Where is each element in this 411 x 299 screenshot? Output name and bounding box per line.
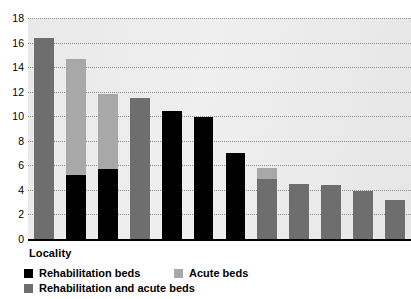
legend-row-1: Rehabilitation beds Acute beds (24, 268, 411, 283)
bar (162, 18, 182, 239)
y-axis-tick-label: 0 (0, 234, 24, 244)
bar-segment (289, 184, 309, 239)
legend-item-rehabilitation-and-acute-beds: Rehabilitation and acute beds (24, 283, 195, 294)
legend-row-2: Rehabilitation and acute beds (24, 283, 411, 298)
bar (321, 18, 341, 239)
legend-swatch-rehabilitation-and-acute-beds (24, 284, 33, 293)
y-axis-tick-label: 2 (0, 209, 24, 219)
y-axis-tick-label: 6 (0, 160, 24, 170)
bar-segment (98, 94, 118, 169)
legend-swatch-acute-beds (174, 269, 183, 278)
bar-chart: 024681012141618 Locality Rehabilitation … (0, 0, 411, 299)
bar-segment (162, 111, 182, 239)
y-axis-tick-label: 18 (0, 13, 24, 23)
bar-segment (385, 200, 405, 239)
y-axis-tick-label: 12 (0, 87, 24, 97)
y-axis-tick-label: 14 (0, 62, 24, 72)
bar-segment (66, 175, 86, 239)
legend-label-acute-beds: Acute beds (189, 268, 248, 279)
bar (353, 18, 373, 239)
chart-legend: Rehabilitation beds Acute beds Rehabilit… (24, 268, 411, 298)
cropped-caption (0, 0, 411, 7)
bar-segment (226, 153, 246, 239)
bar-segment (257, 179, 277, 239)
plot-area (28, 8, 411, 241)
bar (385, 18, 405, 239)
bar-segment (353, 191, 373, 239)
bar (130, 18, 150, 239)
legend-swatch-rehabilitation-beds (24, 269, 33, 278)
bar (257, 18, 277, 239)
y-axis-tick-label: 4 (0, 185, 24, 195)
bar-segment (34, 38, 54, 239)
bar-series (28, 18, 411, 239)
bar (66, 18, 86, 239)
bar (98, 18, 118, 239)
y-axis-tick-label: 8 (0, 136, 24, 146)
bar-segment (66, 59, 86, 176)
x-axis-line (28, 239, 411, 241)
legend-item-rehabilitation-beds: Rehabilitation beds (24, 268, 140, 279)
y-axis-tick-label: 16 (0, 38, 24, 48)
bar-segment (321, 185, 341, 239)
y-axis-tick-label: 10 (0, 111, 24, 121)
bar (194, 18, 214, 239)
legend-item-acute-beds: Acute beds (174, 268, 248, 279)
legend-label-rehabilitation-beds: Rehabilitation beds (39, 268, 140, 279)
bar-segment (98, 169, 118, 239)
bar (226, 18, 246, 239)
x-axis-title: Locality (29, 247, 71, 259)
y-axis-labels: 024681012141618 (0, 8, 24, 241)
bar (34, 18, 54, 239)
bar-segment (130, 98, 150, 239)
legend-label-rehabilitation-and-acute-beds: Rehabilitation and acute beds (39, 283, 195, 294)
bar (289, 18, 309, 239)
bar-segment (194, 117, 214, 239)
bar-segment (257, 168, 277, 179)
